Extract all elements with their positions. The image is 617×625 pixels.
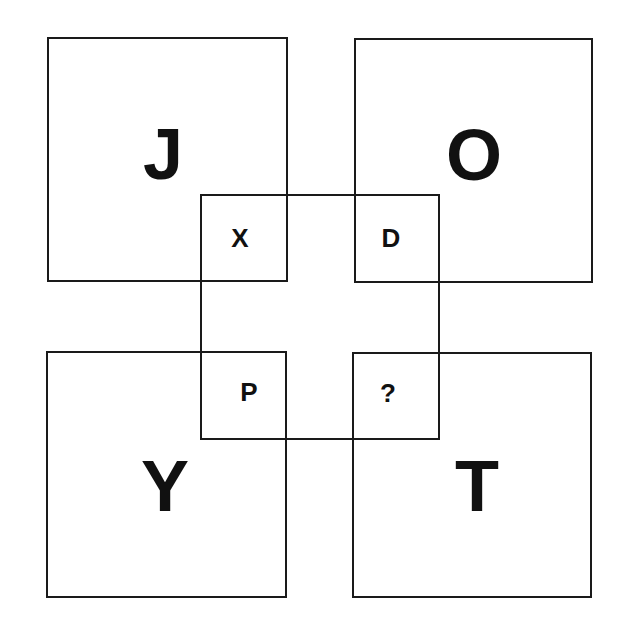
overlap-letter-bottom-left: P — [240, 379, 257, 405]
letter-top-right: O — [446, 119, 502, 191]
letter-top-left: J — [143, 118, 183, 190]
overlap-letter-bottom-right-question-mark: ? — [380, 380, 396, 406]
overlap-letter-top-left: X — [231, 225, 248, 251]
letter-bottom-left: Y — [141, 450, 189, 522]
letter-bottom-right: T — [455, 450, 499, 522]
overlap-letter-top-right: D — [382, 225, 401, 251]
